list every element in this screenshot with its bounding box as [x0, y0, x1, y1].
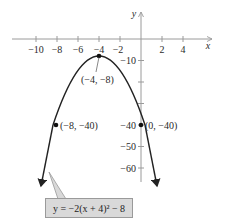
y-tick-label: −10 — [120, 55, 136, 66]
x-axis-label: x — [205, 40, 211, 51]
right-point — [139, 123, 144, 128]
x-tick-label: −2 — [113, 44, 124, 55]
x-tick-label: −8 — [52, 44, 63, 55]
x-tick-label: 4 — [181, 44, 186, 55]
vertex-leader-line — [96, 57, 99, 72]
equation-callout-pointer — [49, 172, 66, 199]
equation-text: y = −2(x + 4)² − 8 — [53, 203, 125, 214]
equation-label-box: y = −2(x + 4)² − 8 — [45, 198, 133, 218]
right-point-label: (0, −40) — [145, 120, 177, 132]
parabola-curve — [53, 56, 145, 125]
x-tick-label: −6 — [73, 44, 84, 55]
x-tick-label: −10 — [28, 44, 44, 55]
left-point-label: (−8, −40) — [60, 120, 98, 132]
x-tick-label: 2 — [160, 44, 165, 55]
y-tick-label: −50 — [120, 141, 136, 152]
y-tick-label: −40 — [120, 120, 136, 131]
y-tick-label: −60 — [120, 163, 136, 174]
parabola-graph: −10 −8 −6 −4 −2 2 4 −10 −40 −50 −60 x y … — [0, 0, 225, 220]
x-tick-label: −4 — [94, 44, 105, 55]
parabola-right-tail — [145, 125, 157, 186]
vertex-label: (−4, −8) — [81, 74, 114, 86]
y-axis-label: y — [131, 8, 137, 19]
left-point — [54, 123, 59, 128]
